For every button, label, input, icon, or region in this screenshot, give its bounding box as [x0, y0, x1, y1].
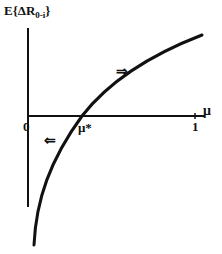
y-axis-label: E{ΔR0-i} [4, 3, 50, 20]
right-arrow-icon: ⇒ [116, 63, 128, 80]
diagram-canvas [0, 0, 222, 254]
mu-star-label: μ* [78, 120, 92, 136]
x-max-tick-label: 1 [192, 119, 199, 135]
origin-tick-label: 0 [23, 119, 30, 135]
left-arrow-icon: ⇐ [44, 132, 56, 149]
x-axis-label: μ [203, 103, 211, 119]
